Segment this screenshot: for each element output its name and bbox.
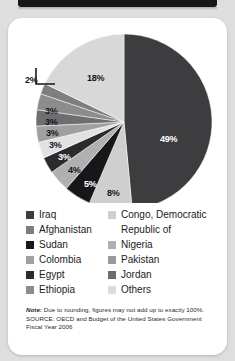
note-rounding-text: Due to rounding, figures may not add up … <box>42 306 204 313</box>
legend-item[interactable]: Republic of <box>108 223 216 238</box>
legend-item[interactable]: Colombia <box>26 253 108 268</box>
legend-swatch-icon <box>108 241 116 249</box>
pie-slice-value-label: 2% <box>25 75 38 85</box>
legend-item-label: Iraq <box>39 208 56 221</box>
legend-swatch-icon <box>26 286 34 294</box>
legend-item[interactable]: Nigeria <box>108 238 216 253</box>
legend-item-label: Colombia <box>39 253 81 266</box>
legend-item-label: Afghanistan <box>39 223 92 236</box>
legend-swatch-icon <box>108 271 116 279</box>
legend-item[interactable]: Congo, Democratic <box>108 208 216 223</box>
top-black-bar <box>18 0 217 7</box>
legend-item[interactable]: Pakistan <box>108 253 216 268</box>
legend-item[interactable]: Others <box>108 283 216 298</box>
chart-card: 49%18%8%5%4%3%3%3%3%3%2% IraqAfghanistan… <box>8 18 227 355</box>
pie-slice-value-label: 18% <box>87 73 104 83</box>
legend-item-label: Egypt <box>39 268 65 281</box>
pie-slice-group <box>36 34 212 203</box>
legend-item-label: Sudan <box>39 238 68 251</box>
pie-slices-svg <box>8 18 227 203</box>
legend-item[interactable]: Iraq <box>26 208 108 223</box>
legend-swatch-icon <box>26 241 34 249</box>
pie-slice-value-label: 8% <box>107 188 120 198</box>
legend-item-label: Others <box>121 283 151 296</box>
legend: IraqAfghanistanSudanColombiaEgyptEthiopi… <box>26 208 216 298</box>
legend-swatch-icon <box>108 211 116 219</box>
note-fiscal-year: Fiscal Year 2006 <box>26 323 218 332</box>
legend-swatch-icon <box>108 256 116 264</box>
legend-swatch-icon <box>26 211 34 219</box>
legend-item[interactable]: Afghanistan <box>26 223 108 238</box>
pie-slice-value-label: 49% <box>160 134 177 144</box>
pie-slice-value-label: 4% <box>68 165 81 175</box>
pie-slice-value-label: 3% <box>45 117 58 127</box>
legend-swatch-icon <box>26 256 34 264</box>
note-rounding: Note: Due to rounding, figures may not a… <box>26 306 218 315</box>
legend-item[interactable]: Jordan <box>108 268 216 283</box>
note-source: SOURCE: OECD and Budget of the United St… <box>26 315 218 324</box>
legend-item-label: Nigeria <box>121 238 153 251</box>
legend-item-label: Congo, Democratic <box>121 208 207 221</box>
pie-slice-value-label: 3% <box>49 140 62 150</box>
pie-slice[interactable] <box>124 34 212 203</box>
legend-column-right: Congo, DemocraticRepublic ofNigeriaPakis… <box>108 208 216 298</box>
legend-swatch-icon <box>26 271 34 279</box>
top-bar-shadow <box>18 7 217 10</box>
chart-notes: Note: Due to rounding, figures may not a… <box>26 306 218 332</box>
legend-item[interactable]: Sudan <box>26 238 108 253</box>
legend-column-left: IraqAfghanistanSudanColombiaEgyptEthiopi… <box>26 208 108 298</box>
legend-item-label: Pakistan <box>121 253 159 266</box>
legend-item-label: Jordan <box>121 268 152 281</box>
pie-slice-value-label: 3% <box>46 128 59 138</box>
legend-item-label: Republic of <box>121 223 171 236</box>
legend-item-label: Ethiopia <box>39 283 75 296</box>
legend-swatch-icon <box>26 226 34 234</box>
pie-slice-value-label: 3% <box>45 106 58 116</box>
legend-swatch-icon <box>108 286 116 294</box>
legend-item[interactable]: Egypt <box>26 268 108 283</box>
pie-slice-value-label: 3% <box>58 152 71 162</box>
pie-chart: 49%18%8%5%4%3%3%3%3%3%2% <box>8 18 227 203</box>
pie-slice-value-label: 5% <box>84 179 97 189</box>
legend-swatch-icon <box>108 226 116 234</box>
legend-item[interactable]: Ethiopia <box>26 283 108 298</box>
note-label: Note: <box>26 306 42 313</box>
